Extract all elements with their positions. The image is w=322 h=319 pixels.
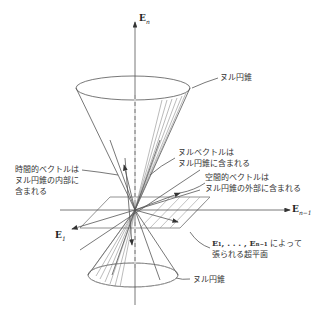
label-hyperplane: E₁, . . . , Eₙ₋₁ によって 張られる超平面 [212, 238, 302, 260]
axis-label-en: En [139, 13, 150, 25]
label-timelike: 時間的ベクトルは ヌル円錐の内部に 含まれる [15, 164, 79, 197]
label-null-vector: ヌルベクトルは ヌル円錐に含まれる [178, 147, 250, 169]
label-null-cone-top: ヌル円錐 [220, 72, 252, 83]
label-null-cone-bottom: ヌル円錐 [193, 274, 225, 285]
diagram-graphics [0, 0, 322, 319]
null-cone-diagram: En En−1 E1 ヌル円錐 ヌルベクトルは ヌル円錐に含まれる 空間的ベクト… [0, 0, 322, 319]
top-cone-rim [76, 76, 190, 100]
axis-label-e1: E1 [55, 230, 66, 242]
axis-label-en-1: En−1 [292, 204, 312, 216]
label-spacelike: 空間的ベクトルは ヌル円錐の外部に含まれる [205, 172, 301, 194]
